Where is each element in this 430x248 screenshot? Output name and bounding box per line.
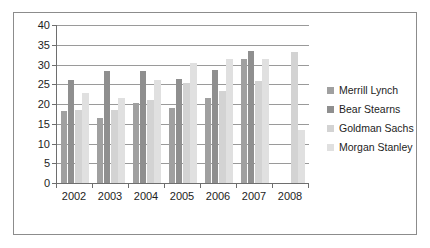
x-axis-tick-mark [272,183,273,188]
bar [111,110,118,183]
x-axis-tick-mark [236,183,237,188]
y-axis-tick-label: 35 [38,39,50,50]
x-axis-tick-mark [56,183,57,188]
bar [169,108,176,183]
x-axis-tick-mark [308,183,309,188]
bar [104,71,111,183]
x-axis-tick-mark [128,183,129,188]
bar [190,63,197,183]
legend-swatch-icon [327,144,334,151]
y-axis-tick-label: 10 [38,138,50,149]
legend-item: Goldman Sachs [327,119,415,138]
legend-item-label: Merrill Lynch [339,85,398,96]
legend-item: Morgan Stanley [327,138,415,157]
bar [212,70,219,183]
bars-layer [57,25,309,183]
bar-group [241,25,269,183]
legend-item-label: Bear Stearns [339,104,400,115]
bar [219,91,226,183]
bar [183,83,190,183]
bar [154,80,161,183]
bar-group [61,25,89,183]
x-axis-tick-label: 2005 [170,191,194,202]
y-axis-tick-label: 40 [38,20,50,31]
y-axis-tick-label: 15 [38,118,50,129]
y-axis-tick-label: 5 [44,158,50,169]
x-axis-tick-label: 2002 [62,191,86,202]
legend-item-label: Morgan Stanley [339,142,413,153]
plot-area: 0510152025303540 [56,25,309,183]
bar [133,103,140,183]
y-axis-tick-label: 20 [38,99,50,110]
chart-legend: Merrill LynchBear StearnsGoldman SachsMo… [327,81,415,157]
bar [68,80,75,183]
bar [75,110,82,183]
x-axis: 2002200320042005200620072008 [56,183,309,213]
y-axis-tick-label: 30 [38,59,50,70]
bar [147,100,154,183]
legend-item: Merrill Lynch [327,81,415,100]
bar-group [205,25,233,183]
y-axis-tick-label: 25 [38,79,50,90]
x-axis-tick-label: 2007 [242,191,266,202]
x-axis-tick-label: 2006 [206,191,230,202]
bar-group [169,25,197,183]
bar [140,71,147,183]
bar [298,130,305,183]
bar [262,59,269,183]
bar [82,93,89,183]
legend-item-label: Goldman Sachs [339,123,414,134]
x-axis-tick-mark [92,183,93,188]
legend-swatch-icon [327,125,334,132]
bar [291,52,298,183]
legend-swatch-icon [327,87,334,94]
x-axis-tick-label: 2003 [98,191,122,202]
bar [205,98,212,183]
bar [241,59,248,183]
bar [118,98,125,183]
bar [255,81,262,183]
bar [97,118,104,183]
bar [61,111,68,183]
bar [248,51,255,183]
y-axis-tick-label: 0 [44,178,50,189]
x-axis-tick-label: 2008 [278,191,302,202]
x-axis-tick-mark [200,183,201,188]
x-axis-tick-mark [164,183,165,188]
chart-frame: 0510152025303540 20022003200420052006200… [13,12,417,235]
legend-item: Bear Stearns [327,100,415,119]
bar-group [133,25,161,183]
legend-swatch-icon [327,106,334,113]
bar [176,79,183,183]
bar [226,59,233,183]
bar-group [97,25,125,183]
bar-group [277,25,305,183]
x-axis-tick-label: 2004 [134,191,158,202]
